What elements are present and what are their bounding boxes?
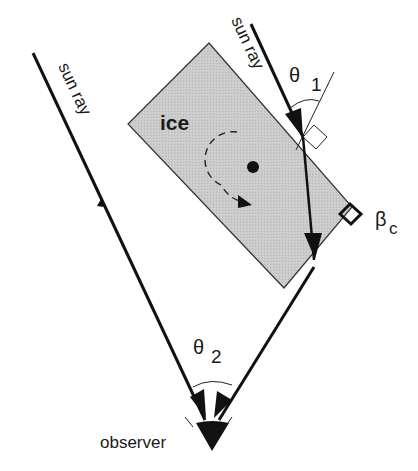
observer-eyelash-left xyxy=(185,417,193,427)
sun-ray-right-label: sun ray xyxy=(227,14,268,73)
observer-label: observer xyxy=(100,433,166,452)
theta2-symbol: θ xyxy=(193,336,204,358)
theta1-symbol: θ xyxy=(289,64,300,86)
theta1-subscript: 1 xyxy=(311,74,322,95)
theta2-arc xyxy=(193,381,232,387)
theta1-arc xyxy=(290,100,319,108)
theta2-subscript: 2 xyxy=(211,346,222,367)
exit-ray xyxy=(219,267,314,420)
observer-eye-icon xyxy=(196,421,229,451)
beta-subscript: c xyxy=(389,219,398,238)
observer-eyelash-right xyxy=(225,417,232,427)
diagram-canvas: ice sun ray sun ray θ 1 β c θ 2 observer xyxy=(0,0,418,471)
beta-symbol: β xyxy=(375,208,387,230)
ice-label: ice xyxy=(160,111,189,134)
rotation-axis-dot xyxy=(247,161,259,173)
